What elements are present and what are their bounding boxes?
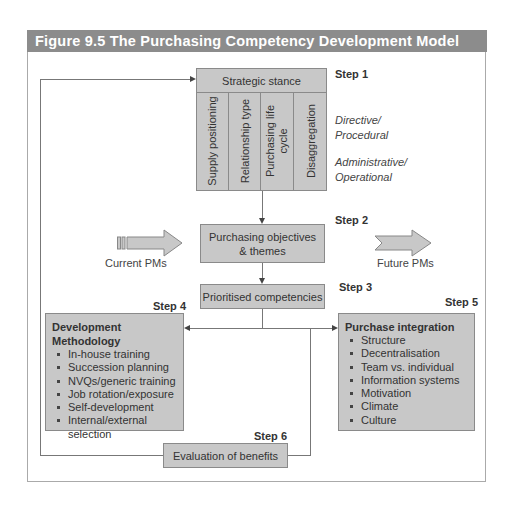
purchase-integration-list: Structure Decentralisation Team vs. indi… (345, 334, 474, 427)
list-item: Internal/external selection (52, 414, 158, 441)
evaluation-of-benefits-box: Evaluation of benefits (163, 443, 288, 468)
column-disaggregation: Disaggregation (294, 92, 327, 190)
column-label: Purchasing life cycle (264, 101, 290, 181)
list-item: Information systems (345, 374, 474, 387)
column-relationship-type: Relationship type (229, 92, 261, 190)
development-methodology-list: In-house training Succession planning NV… (52, 348, 183, 441)
step5-label: Step 5 (445, 296, 478, 308)
feedback-line-bottom-left (40, 455, 163, 456)
arrow-into-step4 (184, 325, 190, 331)
purchasing-objectives-box: Purchasing objectives & themes (200, 224, 325, 263)
future-pms-label: Future PMs (377, 257, 434, 269)
purchase-integration-box: Purchase integration Structure Decentral… (338, 313, 475, 431)
purchasing-objectives-title: Purchasing objectives & themes (209, 230, 316, 258)
list-item: Motivation (345, 387, 474, 400)
current-pms-label: Current PMs (105, 257, 167, 269)
column-label: Relationship type (238, 99, 251, 183)
administrative-operational-label: Administrative/ Operational (335, 155, 415, 185)
strategic-stance-title: Strategic stance (222, 75, 301, 87)
directive-procedural-label: Directive/ Procedural (335, 113, 395, 143)
step6-label: Step 6 (254, 430, 287, 442)
step5-return-bottom (287, 455, 311, 456)
list-item: Succession planning (52, 361, 183, 374)
list-item: Structure (345, 334, 474, 347)
column-supply-positioning: Supply positioning (196, 92, 229, 190)
list-item: Climate (345, 400, 474, 413)
list-item: Job rotation/exposure (52, 388, 183, 401)
column-label: Supply positioning (206, 96, 219, 185)
step4-label: Step 4 (153, 300, 186, 312)
list-item: Self-development (52, 401, 183, 414)
development-methodology-title: Development Methodology (52, 320, 183, 348)
evaluation-of-benefits-title: Evaluation of benefits (173, 450, 278, 462)
development-methodology-box: Development Methodology In-house trainin… (45, 313, 184, 431)
step1-label: Step 1 (335, 68, 368, 80)
figure-title: Figure 9.5 The Purchasing Competency Dev… (27, 30, 487, 52)
step2-label: Step 2 (335, 214, 368, 226)
prioritised-competencies-title: Prioritised competencies (203, 291, 323, 303)
strategic-stance-box: Strategic stance (196, 68, 327, 93)
prioritised-competencies-box: Prioritised competencies (200, 284, 325, 309)
connector-2-3 (262, 263, 263, 279)
feedback-line-top (40, 79, 190, 80)
step5-return-line (310, 328, 311, 455)
column-purchasing-life-cycle: Purchasing life cycle (261, 92, 294, 190)
current-pms-arrow-icon (117, 229, 183, 257)
connector-1-2 (262, 191, 263, 218)
purchase-integration-title: Purchase integration (345, 320, 474, 334)
list-item: Decentralisation (345, 347, 474, 360)
list-item: In-house training (52, 348, 183, 361)
branch-horizontal (190, 328, 333, 329)
step3-label: Step 3 (339, 281, 372, 293)
connector-3-branch (262, 309, 263, 328)
future-pms-arrow-icon (374, 229, 432, 257)
list-item: Team vs. individual (345, 361, 474, 374)
list-item: NVQs/generic training (52, 375, 183, 388)
list-item: Culture (345, 414, 474, 427)
feedback-line-left (40, 79, 41, 456)
column-label: Disaggregation (304, 104, 317, 178)
